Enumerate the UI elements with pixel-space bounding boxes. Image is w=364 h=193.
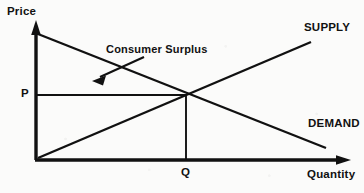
supply-curve-label: SUPPLY [304,22,350,34]
y-axis-label: Price [7,6,36,18]
y-axis-arrowhead [31,20,41,35]
consumer-surplus-arrowhead [92,76,106,86]
demand-curve-label: DEMAND [308,118,360,130]
x-axis-arrowhead [336,155,351,165]
supply-demand-diagram: Price Quantity SUPPLY DEMAND P Q Consume… [0,0,364,193]
equilibrium-price-tick-label: P [21,88,29,100]
consumer-surplus-annotation-label: Consumer Surplus [106,44,208,55]
x-axis-label: Quantity [307,169,355,181]
supply-curve [38,42,311,158]
equilibrium-quantity-tick-label: Q [181,167,190,179]
